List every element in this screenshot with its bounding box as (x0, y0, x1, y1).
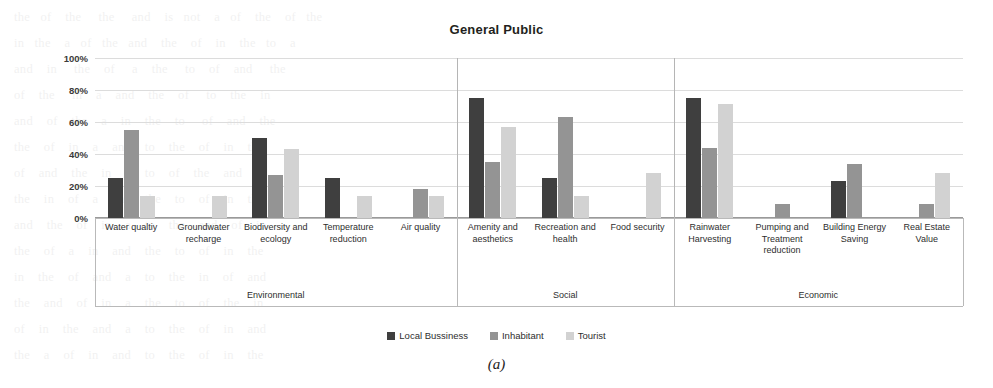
bar (357, 196, 372, 218)
bar (501, 127, 516, 218)
group-labels: EnvironmentalSocialEconomic (95, 286, 963, 312)
bar-group (384, 58, 456, 218)
label-box-border (95, 218, 96, 306)
bar (469, 98, 484, 218)
bar (284, 149, 299, 218)
bar (252, 138, 267, 218)
legend-item: Tourist (566, 330, 606, 341)
label-box-border (674, 306, 963, 307)
bar (919, 204, 934, 218)
bar-group (818, 58, 890, 218)
bar (212, 196, 227, 218)
legend-item: Local Bussiness (387, 330, 468, 341)
plot-area: 0%20%40%60%80%100% (0, 58, 993, 238)
bar-group (240, 58, 312, 218)
category-label: Food security (601, 218, 673, 280)
bar (124, 130, 139, 218)
bar (775, 204, 790, 218)
bar (268, 175, 283, 218)
y-tick-label: 100% (64, 53, 88, 64)
bar (108, 178, 123, 218)
label-box-border (674, 218, 675, 306)
bar (413, 189, 428, 218)
bar-group (167, 58, 239, 218)
category-label: Temperature reduction (312, 218, 384, 280)
y-tick-label: 60% (69, 117, 88, 128)
bar (542, 178, 557, 218)
legend-swatch (387, 332, 395, 340)
y-tick-label: 20% (69, 181, 88, 192)
category-label: Building Energy Saving (818, 218, 890, 280)
legend-swatch (490, 332, 498, 340)
figure-a: General Public 0%20%40%60%80%100% Water … (0, 0, 993, 388)
label-box-border (674, 218, 963, 219)
bar (686, 98, 701, 218)
bar (646, 173, 661, 218)
category-label: Pumping and Treatment reduction (746, 218, 818, 280)
legend-item: Inhabitant (490, 330, 544, 341)
category-labels: Water qualtiyGroundwater rechargeBiodive… (95, 218, 963, 280)
bar (429, 196, 444, 218)
bar-groups (95, 58, 963, 218)
bar (574, 196, 589, 218)
label-box-border (457, 218, 674, 219)
y-tick-label: 0% (74, 213, 88, 224)
label-box-border (457, 306, 674, 307)
group-label: Social (457, 286, 674, 312)
bar-group (601, 58, 673, 218)
legend-swatch (566, 332, 574, 340)
group-label: Economic (674, 286, 963, 312)
bar (558, 117, 573, 218)
figure-caption: (a) (0, 356, 993, 373)
label-box-border (963, 218, 964, 306)
bar-group (95, 58, 167, 218)
label-box-border (457, 218, 458, 306)
bar (140, 196, 155, 218)
bar (325, 178, 340, 218)
chart-legend: Local BussinessInhabitantTourist (0, 330, 993, 341)
category-label: Real Estate Value (891, 218, 963, 280)
chart-title: General Public (0, 22, 993, 37)
category-label: Groundwater recharge (167, 218, 239, 280)
bar-group (746, 58, 818, 218)
category-label: Water qualtiy (95, 218, 167, 280)
bar-group (674, 58, 746, 218)
bar (831, 181, 846, 218)
bar-group (312, 58, 384, 218)
y-tick-label: 80% (69, 85, 88, 96)
bar-group (891, 58, 963, 218)
group-label: Environmental (95, 286, 457, 312)
category-label: Air quality (384, 218, 456, 280)
bar (718, 104, 733, 218)
bar (485, 162, 500, 218)
y-tick-label: 40% (69, 149, 88, 160)
legend-label: Local Bussiness (399, 330, 468, 341)
label-box-border (95, 306, 457, 307)
legend-label: Tourist (578, 330, 606, 341)
bar (702, 148, 717, 218)
category-label: Biodiversity and ecology (240, 218, 312, 280)
label-box-border (95, 218, 457, 219)
category-label: Recreation and health (529, 218, 601, 280)
legend-label: Inhabitant (502, 330, 544, 341)
bar-group (529, 58, 601, 218)
bar (847, 164, 862, 218)
category-label: Amenity and aesthetics (457, 218, 529, 280)
y-axis-tick-labels: 0%20%40%60%80%100% (40, 58, 88, 218)
category-label: Rainwater Harvesting (674, 218, 746, 280)
bar-group (457, 58, 529, 218)
bar (935, 173, 950, 218)
